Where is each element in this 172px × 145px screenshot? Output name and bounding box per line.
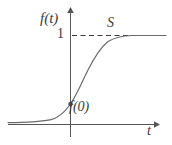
x-axis-arrowhead <box>154 121 160 128</box>
initial-value-label: f(0) <box>69 100 89 114</box>
y-axis-arrowhead <box>67 7 74 13</box>
x-axis-variable-label: t <box>147 124 151 138</box>
y-tick-label-one: 1 <box>57 27 64 41</box>
saturation-curve-label: S <box>107 16 114 30</box>
y-axis-function-label: f(t) <box>40 11 58 26</box>
y-axis <box>67 7 74 137</box>
sigmoid-figure: f(t) 1 S f(0) t <box>0 0 172 145</box>
